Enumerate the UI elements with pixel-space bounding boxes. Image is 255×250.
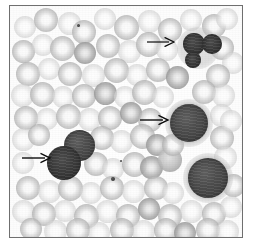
red-blood-cell <box>16 176 40 200</box>
red-blood-cell <box>180 200 203 223</box>
red-blood-cell <box>58 62 82 86</box>
red-blood-cell <box>28 124 50 146</box>
red-blood-cell <box>166 66 189 89</box>
red-blood-cell <box>14 16 36 38</box>
red-blood-cell <box>162 182 184 204</box>
red-blood-cell <box>220 196 242 218</box>
red-blood-cell <box>216 8 238 30</box>
red-blood-cell <box>20 218 42 237</box>
red-blood-cell <box>72 84 96 108</box>
red-blood-cell <box>88 222 110 237</box>
red-blood-cell <box>12 152 34 174</box>
red-blood-cell <box>104 58 129 83</box>
red-blood-cell <box>38 58 60 80</box>
red-blood-cell <box>50 36 75 61</box>
red-blood-cell <box>216 220 239 237</box>
red-blood-cell <box>80 182 102 204</box>
red-blood-cell <box>66 218 90 237</box>
wbc-bottom-right <box>188 158 228 198</box>
photomicrograph-figure <box>0 0 255 250</box>
wbc-top-3 <box>185 52 201 68</box>
red-blood-cell <box>220 110 242 132</box>
red-blood-cell <box>110 218 134 237</box>
blood-smear-field <box>10 6 242 237</box>
red-blood-cell <box>138 198 160 220</box>
red-blood-cell <box>44 220 67 237</box>
wbc-left-lower <box>47 146 81 180</box>
red-blood-cell <box>34 8 58 32</box>
wbc-middle-right <box>170 104 208 142</box>
micrograph-frame <box>9 5 243 238</box>
wbc-top-2 <box>202 34 222 54</box>
red-blood-cell <box>72 20 96 44</box>
red-blood-cell <box>132 220 155 237</box>
red-blood-cell <box>74 42 96 64</box>
red-blood-cell <box>94 8 116 30</box>
red-blood-cell <box>114 15 139 40</box>
red-blood-cell <box>152 86 174 108</box>
red-blood-cell <box>96 34 120 58</box>
red-blood-cell <box>174 222 196 237</box>
